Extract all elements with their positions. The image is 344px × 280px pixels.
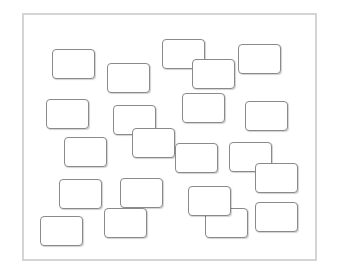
diagram-canvas [0, 0, 344, 280]
diagram-node[interactable] [245, 101, 288, 131]
diagram-node[interactable] [64, 137, 107, 167]
diagram-node[interactable] [192, 59, 235, 89]
diagram-node[interactable] [182, 93, 225, 123]
diagram-node[interactable] [59, 179, 102, 209]
diagram-node[interactable] [46, 99, 89, 129]
diagram-node[interactable] [40, 216, 83, 246]
diagram-node[interactable] [107, 63, 150, 93]
diagram-node[interactable] [255, 163, 298, 193]
diagram-node[interactable] [104, 208, 147, 238]
diagram-node[interactable] [120, 178, 163, 208]
diagram-node[interactable] [175, 143, 218, 173]
diagram-node[interactable] [132, 128, 175, 158]
diagram-node[interactable] [188, 186, 231, 216]
diagram-node[interactable] [255, 202, 298, 232]
diagram-node[interactable] [238, 44, 281, 74]
diagram-node[interactable] [52, 49, 95, 79]
